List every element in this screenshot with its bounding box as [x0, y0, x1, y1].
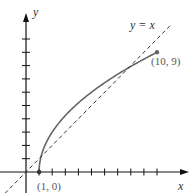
points	[37, 50, 159, 174]
series	[5, 26, 170, 193]
x-axis-arrow-icon	[180, 169, 189, 175]
y-axis-arrow-icon	[23, 13, 29, 22]
point-start-label: (1, 0)	[37, 181, 61, 192]
line-label: y = x	[130, 19, 155, 31]
endpoint-marker	[155, 50, 159, 54]
point-end-label: (10, 9)	[151, 56, 180, 67]
x-axis-label: x	[178, 180, 183, 192]
endpoint-marker	[37, 170, 41, 174]
y-axis-label: y	[33, 6, 38, 18]
identity-line	[5, 26, 170, 193]
plot-area	[0, 0, 190, 193]
curve	[39, 52, 157, 172]
